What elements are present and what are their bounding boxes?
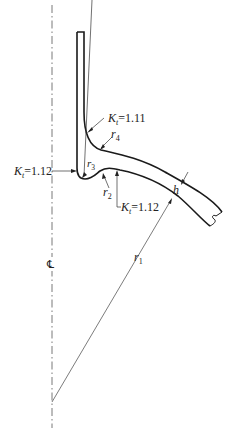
label-kt-left: Kt=1.12	[13, 164, 52, 180]
leader-r3	[84, 0, 92, 176]
label-kt-bottom: Kt=1.12	[120, 200, 159, 216]
svg-text:℄: ℄	[46, 258, 54, 270]
svg-text:r1: r1	[134, 250, 143, 266]
svg-text:r3: r3	[87, 157, 95, 172]
label-h: h	[173, 183, 179, 197]
arrowhead-icon	[168, 198, 172, 204]
label-centerline: ℄	[46, 257, 58, 271]
label-kt-top: Kt=1.11	[107, 111, 146, 127]
svg-text:Kt=1.11: Kt=1.11	[107, 111, 146, 127]
arrowhead-icon	[181, 179, 185, 185]
svg-text:h: h	[173, 183, 179, 197]
svg-text:r2: r2	[103, 185, 112, 201]
label-r1: r1	[134, 250, 143, 266]
arrowhead-icon	[115, 170, 119, 176]
break-line	[210, 212, 222, 226]
svg-text:r4: r4	[111, 127, 120, 143]
arrowhead-icon	[71, 169, 77, 173]
label-r4: r4	[111, 127, 120, 143]
arrowhead-icon	[102, 173, 106, 179]
arrowhead-icon	[87, 127, 93, 133]
component-outer-outline	[77, 32, 222, 212]
diagram-canvas: Kt=1.11 r4 Kt=1.12 r3 r2 Kt=1.12 h r1 ℄	[0, 0, 236, 434]
svg-text:Kt=1.12: Kt=1.12	[13, 164, 52, 180]
component-inner-outline	[77, 32, 210, 226]
svg-text:Kt=1.12: Kt=1.12	[120, 200, 159, 216]
dimension-r1-line	[52, 200, 171, 402]
label-r3: r3	[87, 157, 95, 172]
label-r2: r2	[103, 185, 112, 201]
arrowhead-icon	[82, 172, 87, 178]
